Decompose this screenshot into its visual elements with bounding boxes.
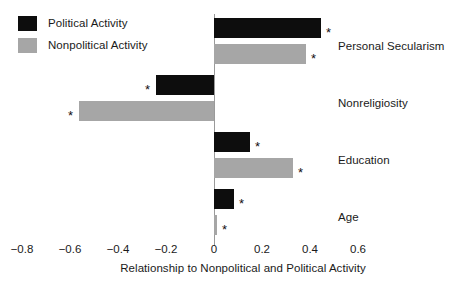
x-tick-label-7: 0.6	[350, 243, 366, 255]
x-tick-label-3: −0.2	[155, 243, 178, 255]
x-tick-label-5: 0.2	[254, 243, 270, 255]
x-tick-label-0: −0.8	[11, 243, 34, 255]
x-tick-label-2: −0.4	[107, 243, 130, 255]
bar-chart-figure: Political Activity Nonpolitical Activity…	[0, 0, 450, 285]
x-tick-label-1: −0.6	[59, 243, 82, 255]
x-axis-title: Relationship to Nonpolitical and Politic…	[0, 262, 450, 274]
x-axis: −0.8 −0.6 −0.4 −0.2 0 0.2 0.4 0.6	[0, 0, 450, 285]
x-axis-title-text: Relationship to Nonpolitical and Politic…	[84, 262, 365, 274]
x-tick-label-6: 0.4	[302, 243, 318, 255]
x-tick-label-4: 0	[211, 243, 217, 255]
